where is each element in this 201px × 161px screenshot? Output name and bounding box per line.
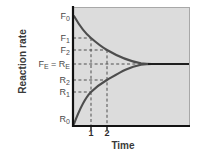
y-axis-title: Reaction rate (17, 2, 28, 122)
y-tick-fe-sub: E (44, 63, 49, 70)
y-tick-f0-sub: 0 (66, 15, 70, 22)
y-tick-label-r2: R2 (0, 76, 72, 85)
y-tick-f1-sub: 1 (66, 37, 70, 44)
y-tick-label-r0: R0 (0, 115, 72, 124)
y-tick-re-sub: E (65, 63, 70, 70)
y-tick-f2-sub: 2 (66, 49, 70, 56)
y-tick-equals: = (49, 59, 59, 69)
y-tick-label-f2: F2 (0, 46, 72, 55)
x-tick-label-2: 2 (99, 128, 115, 138)
y-tick-r0-sub: 0 (66, 118, 70, 125)
reaction-rate-equilibrium-chart: F0 F1 F2 FE = RE R2 R1 R0 1 2 Reaction r… (0, 0, 201, 161)
y-tick-r1-sub: 1 (66, 91, 70, 98)
y-tick-label-f1: F1 (0, 34, 72, 43)
y-tick-label-f0: F0 (0, 12, 72, 21)
y-axis-tick-labels: F0 F1 F2 FE = RE R2 R1 R0 (0, 0, 72, 161)
y-tick-r2-sub: 2 (66, 79, 70, 86)
y-tick-label-r1: R1 (0, 88, 72, 97)
y-tick-label-fe-re: FE = RE (0, 60, 72, 69)
x-axis-title: Time (88, 140, 158, 151)
x-tick-label-1: 1 (83, 128, 99, 138)
